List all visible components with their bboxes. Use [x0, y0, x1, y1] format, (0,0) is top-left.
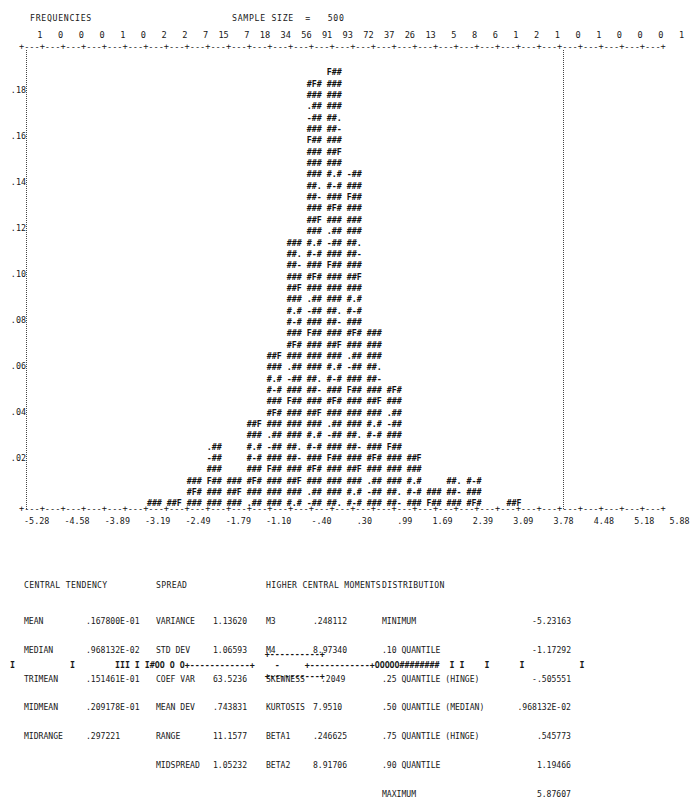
stats-heading-distribution: DISTRIBUTION [382, 581, 484, 591]
stat-value: .545773 [505, 732, 571, 742]
boxplot-median-row: I I III I I#OO O O+------------+ - +----… [0, 661, 584, 670]
stat-value: 8.91706 [313, 761, 347, 771]
stat-value: .968132E-02 [505, 703, 571, 713]
stat-value: 11.1577 [213, 732, 247, 742]
stat-label: RANGE [156, 731, 180, 741]
stat-label: MIDMEAN [24, 702, 58, 712]
stat-label: MEAN [24, 616, 44, 626]
stat-value: .167800E-01 [86, 617, 140, 627]
y-tick-label: .18 [2, 86, 26, 94]
stat-label: MIDSPREAD [156, 760, 200, 770]
y-tick-label: .06 [2, 362, 26, 370]
stats-heading-spread: SPREAD [156, 581, 200, 591]
stat-value: 1.19466 [505, 761, 571, 771]
stat-row: MAXIMUM [382, 790, 484, 800]
sample-size-label: SAMPLE SIZE = 500 [232, 14, 345, 22]
y-tick-label: .14 [2, 178, 26, 186]
stat-row: MINIMUM [382, 617, 484, 627]
stat-value: .209178E-01 [86, 703, 140, 713]
stat-label: .75 QUANTILE (HINGE) [382, 731, 479, 741]
stat-label: VARIANCE [156, 616, 195, 626]
y-tick-label: .02 [2, 454, 26, 462]
stat-value: 7.9510 [313, 703, 347, 713]
spacer [505, 581, 571, 591]
y-tick-label: .12 [2, 224, 26, 232]
stat-label: MEAN DEV [156, 702, 195, 712]
spacer [313, 581, 347, 591]
stat-row: VARIANCE [156, 617, 200, 627]
y-tick-label: .04 [2, 408, 26, 416]
stat-label: M3 [266, 616, 276, 626]
y-tick-label: .10 [2, 270, 26, 278]
stat-row: .90 QUANTILE [382, 761, 484, 771]
stat-value: -5.23163 [505, 617, 571, 627]
y-tick-label: .08 [2, 316, 26, 324]
x-tick-labels-row: -5.28 -4.58 -3.89 -3.19 -2.49 -1.79 -1.1… [19, 517, 690, 525]
histogram-ascii-body: F## #F# ### ### ### .## ### [27, 56, 522, 510]
spacer [86, 581, 140, 591]
boxplot: +----------+ I I III I I#OO O O+--------… [0, 650, 589, 690]
spacer [213, 581, 247, 591]
stat-value: 1.13620 [213, 617, 247, 627]
frequencies-label: FREQUENCIES [30, 14, 92, 22]
stat-value: .246625 [313, 732, 347, 742]
frequency-counts-row: 1 0 0 0 1 0 2 2 7 15 7 18 34 56 91 93 72… [27, 31, 684, 40]
stat-row: .50 QUANTILE (MEDIAN) [382, 703, 484, 713]
bottom-axis-rule: +---+---+---+---+---+---+---+---+---+---… [19, 505, 666, 514]
stat-row: MEAN DEV [156, 703, 200, 713]
stat-label: MIDRANGE [24, 731, 63, 741]
stat-row: .75 QUANTILE (HINGE) [382, 732, 484, 742]
boxplot-lower-whisker-row: +----------+ [0, 672, 325, 681]
boxplot-upper-whisker-row: +----------+ [0, 650, 325, 659]
stat-value: .297221 [86, 732, 140, 742]
stat-row: MIDSPREAD [156, 761, 200, 771]
stat-label: KURTOSIS [266, 702, 305, 712]
stat-label: .50 QUANTILE (MEDIAN) [382, 702, 484, 712]
stat-value: .248112 [313, 617, 347, 627]
stat-label: BETA1 [266, 731, 290, 741]
stat-label: MINIMUM [382, 616, 416, 626]
stat-row: RANGE [156, 732, 200, 742]
stat-label: .90 QUANTILE [382, 760, 440, 770]
stat-value: 1.05232 [213, 761, 247, 771]
stat-value: 5.87607 [505, 790, 571, 800]
stat-value: .743831 [213, 703, 247, 713]
y-tick-label: .16 [2, 132, 26, 140]
stat-label: MAXIMUM [382, 789, 416, 799]
stat-label: BETA2 [266, 760, 290, 770]
